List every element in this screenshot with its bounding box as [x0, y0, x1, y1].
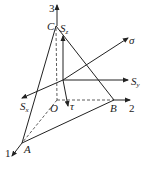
vector-sigma: [63, 38, 128, 80]
point-c-label: C: [47, 20, 55, 32]
diagram-canvas: 3 2 1 C B A O Sz Sy Sx σ τ: [0, 0, 147, 171]
vector-sigma-label: σ: [129, 34, 135, 46]
vector-tau-label: τ: [70, 100, 75, 112]
edge-c-a: [22, 26, 56, 143]
stress-tetrahedron-diagram: 3 2 1 C B A O Sz Sy Sx σ τ: [0, 0, 147, 171]
vector-sy-label: Sy: [131, 75, 141, 89]
point-b-label: B: [110, 102, 117, 114]
point-a-label: A: [23, 143, 31, 155]
axis-3-label: 3: [49, 2, 55, 14]
vector-tau: [63, 80, 68, 106]
point-o-label: O: [50, 102, 58, 114]
axis-1-label: 1: [5, 147, 11, 159]
axis-2-label: 2: [129, 102, 135, 114]
axis-1-line: [12, 143, 22, 156]
dashed-c-o: [56, 28, 57, 100]
vector-sx-label: Sx: [20, 100, 30, 114]
edge-a-b: [22, 100, 114, 143]
vector-sz-label: Sz: [60, 22, 69, 36]
